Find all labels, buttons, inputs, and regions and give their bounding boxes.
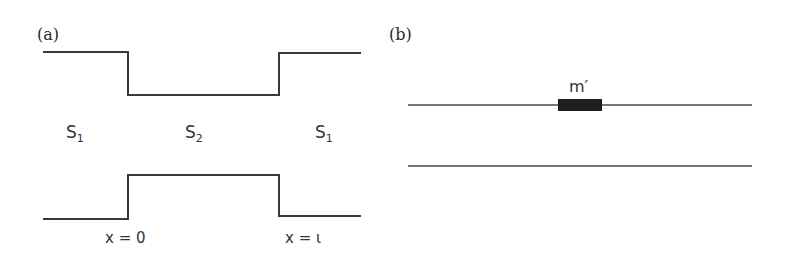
upper-boundary-wall bbox=[43, 52, 361, 95]
region-label-s1-left: S1 bbox=[66, 122, 84, 145]
panel-a: (a) S1 S2 S1 x = 0 x = ι bbox=[37, 25, 361, 247]
boundary-label-xl: x = ι bbox=[285, 229, 321, 247]
figure-canvas: (a) S1 S2 S1 x = 0 x = ι (b) m′ bbox=[0, 0, 786, 253]
panel-a-label: (a) bbox=[37, 25, 59, 44]
region-label-s1-right: S1 bbox=[315, 122, 333, 145]
panel-b-label: (b) bbox=[389, 25, 412, 44]
mass-block bbox=[558, 99, 602, 111]
boundary-label-x0: x = 0 bbox=[105, 229, 146, 247]
mass-label: m′ bbox=[569, 77, 589, 96]
region-label-s2: S2 bbox=[185, 122, 203, 145]
lower-boundary-wall bbox=[43, 175, 361, 219]
panel-b: (b) m′ bbox=[389, 25, 752, 166]
